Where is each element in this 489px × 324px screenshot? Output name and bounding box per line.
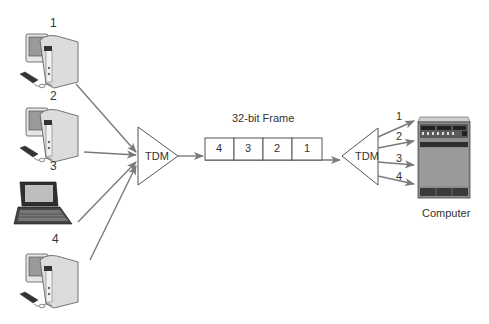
right-tdm-label: TDM (355, 151, 379, 162)
left-tdm-label: TDM (145, 151, 169, 162)
frame-slot-4: 4 (216, 143, 222, 154)
source-computer-4 (20, 254, 78, 308)
frame-slot-2: 2 (274, 143, 280, 154)
source-label-2: 2 (50, 90, 57, 102)
input-arrows (76, 84, 136, 260)
source-computer-2 (20, 108, 78, 162)
frame-label: 32-bit Frame (232, 113, 294, 124)
output-label-4: 4 (396, 171, 402, 182)
source-computer-1 (20, 34, 78, 88)
destination-label: Computer (422, 208, 470, 219)
output-label-2: 2 (396, 131, 402, 142)
source-label-1: 1 (50, 17, 57, 29)
tdm-diagram (0, 0, 489, 324)
source-label-3: 3 (50, 160, 57, 172)
output-label-3: 3 (396, 153, 402, 164)
source-laptop-3 (14, 182, 72, 224)
output-label-1: 1 (396, 111, 402, 122)
source-label-4: 4 (52, 233, 59, 245)
frame-slot-3: 3 (245, 143, 251, 154)
frame-slot-1: 1 (304, 143, 310, 154)
destination-computer (418, 117, 470, 198)
